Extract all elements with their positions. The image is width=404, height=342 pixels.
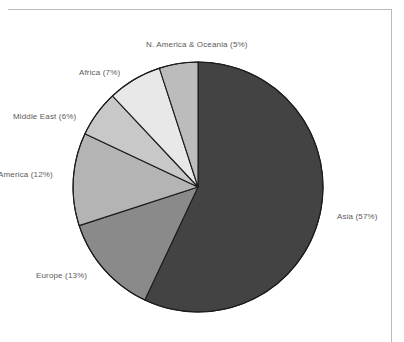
pie-label-europe: Europe (13%) [36,271,87,281]
pie-label-asia: Asia (57%) [337,212,378,222]
pie-label-n-america-oceania: N. America & Oceania (5%) [146,40,248,50]
pie-label-middle-east: Middle East (6%) [13,112,76,122]
pie-chart: Asia (57%) Europe (13%) America (12%) Mi… [0,0,404,342]
pie-chart-graphic [0,0,404,342]
pie-label-africa: Africa (7%) [79,68,120,78]
pie-label-america: America (12%) [0,170,53,180]
chart-page: Asia (57%) Europe (13%) America (12%) Mi… [0,0,404,342]
